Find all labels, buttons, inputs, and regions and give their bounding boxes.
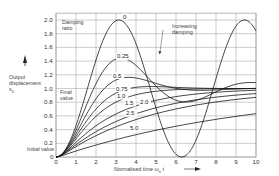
damping-ratio-label-2: ratio bbox=[62, 25, 73, 31]
curve-label-2.5: 2.5 bbox=[126, 110, 135, 116]
increasing-damping-arrow bbox=[160, 30, 163, 52]
x-tick-label: 3 bbox=[114, 158, 118, 165]
y-tick-label: 1.8 bbox=[44, 30, 53, 37]
curve-label-0.25: 0.25 bbox=[117, 53, 129, 59]
x-tick-label: 5 bbox=[154, 158, 158, 165]
y-tick-label: 1.6 bbox=[44, 43, 53, 50]
y-tick-label: 0.4 bbox=[44, 126, 53, 133]
axis-ticks: 01234567891000.20.40.60.81.01.21.41.61.8… bbox=[44, 16, 260, 165]
y-axis-label-line2: displacement bbox=[9, 80, 41, 86]
y-tick-label: 1.2 bbox=[44, 71, 53, 78]
y-tick-label: 0.8 bbox=[44, 98, 53, 105]
y-tick-label: 1.4 bbox=[44, 57, 53, 64]
grid-lines bbox=[56, 13, 256, 157]
curve-label-1.5: 1.5 bbox=[125, 100, 134, 106]
curve-label-2.0: 2.0 bbox=[140, 99, 149, 105]
curve-label-1.0: 1.0 bbox=[117, 93, 126, 99]
x-axis-arrow-icon bbox=[195, 167, 201, 171]
y-tick-label: 0 bbox=[50, 153, 54, 160]
x-tick-label: 7 bbox=[194, 158, 198, 165]
final-value-label-2: value bbox=[60, 95, 73, 101]
chart-canvas: 01234567891000.20.40.60.81.01.21.41.61.8… bbox=[0, 0, 279, 176]
y-tick-label: 0.6 bbox=[44, 112, 53, 119]
curve-label-0.75: 0.75 bbox=[116, 86, 128, 92]
y-tick-label: 2.0 bbox=[44, 16, 53, 23]
arrow-head-icon bbox=[159, 51, 162, 55]
increasing-damping-label-2: damping bbox=[172, 29, 193, 35]
x-tick-label: 1 bbox=[74, 158, 78, 165]
y-tick-label: 1.0 bbox=[44, 85, 53, 92]
x-tick-label: 2 bbox=[94, 158, 98, 165]
x-tick-label: 0 bbox=[54, 158, 58, 165]
x-axis-label: Normalised time ωn t bbox=[114, 166, 164, 174]
curve-label-5.0: 5.0 bbox=[130, 125, 139, 131]
x-tick-label: 4 bbox=[134, 158, 138, 165]
initial-value-label: Initial value bbox=[27, 146, 54, 152]
y-axis-arrow-icon bbox=[23, 55, 27, 63]
curve-label-0.5: 0.5 bbox=[113, 73, 122, 79]
y-axis-label-line3: x0 bbox=[9, 86, 15, 94]
x-tick-label: 10 bbox=[253, 158, 260, 165]
step-response-chart: 01234567891000.20.40.60.81.01.21.41.61.8… bbox=[0, 0, 279, 176]
x-tick-label: 8 bbox=[214, 158, 218, 165]
x-tick-label: 6 bbox=[174, 158, 178, 165]
x-tick-label: 9 bbox=[234, 158, 238, 165]
